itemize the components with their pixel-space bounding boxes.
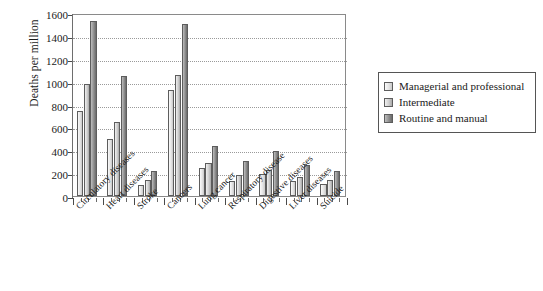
y-tick-label: 600 (26, 124, 68, 134)
y-tick-label: 400 (26, 147, 68, 157)
x-tick-mark-minor (339, 198, 340, 202)
x-tick-mark-minor (126, 198, 127, 202)
bar (320, 184, 326, 196)
x-tick-mark-minor (96, 198, 97, 202)
x-tick-mark-minor (187, 198, 188, 202)
y-axis-tick-labels: 16001400120010008006004002000 (24, 14, 68, 198)
legend-item-intermediate[interactable]: Intermediate (384, 94, 530, 110)
x-tick-mark (347, 198, 348, 205)
bar (121, 76, 127, 196)
legend-swatch-icon (384, 114, 393, 123)
x-tick-mark-minor (279, 198, 280, 202)
legend: Managerial and professional Intermediate… (378, 72, 536, 133)
bar (84, 84, 90, 196)
legend-label: Managerial and professional (399, 80, 524, 92)
bar-group (77, 13, 97, 196)
x-tick-mark-minor (248, 198, 249, 202)
x-tick-mark-minor (309, 198, 310, 202)
legend-item-managerial[interactable]: Managerial and professional (384, 78, 530, 94)
legend-swatch-icon (384, 82, 393, 91)
y-axis-line (72, 14, 73, 198)
bar (175, 75, 181, 196)
legend-label: Intermediate (399, 96, 455, 108)
legend-item-routine[interactable]: Routine and manual (384, 110, 530, 126)
y-tick-label: 1400 (26, 33, 68, 43)
y-tick-label: 1600 (26, 10, 68, 20)
y-tick-label: 0 (26, 193, 68, 203)
bar-group (229, 13, 249, 196)
bar (90, 21, 96, 196)
bar (199, 168, 205, 196)
legend-label: Routine and manual (399, 112, 488, 124)
y-tick-label: 200 (26, 170, 68, 180)
bar (168, 90, 174, 196)
y-tick-label: 800 (26, 102, 68, 112)
bar-group (199, 13, 219, 196)
bar-group (168, 13, 188, 196)
legend-swatch-icon (384, 98, 393, 107)
y-tick-label: 1000 (26, 79, 68, 89)
bar (77, 111, 83, 196)
x-tick-mark-minor (157, 198, 158, 202)
bar (182, 24, 188, 196)
y-tick-label: 1200 (26, 56, 68, 66)
bar-chart: Deaths per million 160014001200100080060… (0, 0, 543, 291)
x-tick-mark-minor (218, 198, 219, 202)
